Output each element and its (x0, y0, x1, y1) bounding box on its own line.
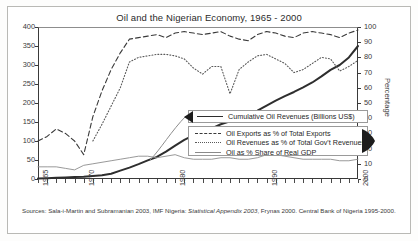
legend-label-cumulative-oil-revenues: Cumulative Oil Revenues (Billions US$) (228, 112, 355, 121)
chart-figure: Oil and the Nigerian Economy, 1965 - 200… (0, 0, 418, 241)
source-prefix: Sources: Sala-i-Martin and Subramanian 2… (22, 207, 188, 214)
legend-swatch-dotted (195, 139, 221, 146)
legend-percentage-series[interactable]: Oil Exports as % of Total Exports Oil Re… (188, 126, 368, 156)
source-note: Sources: Sala-i-Martin and Subramanian 2… (22, 207, 402, 214)
legend-item-oil-revenues[interactable]: Oil Revenues as % of Total Gov't Revenue… (189, 138, 367, 147)
source-italic: Statistical Appendix 2003 (188, 207, 257, 214)
legend-label-oil-revenues: Oil Revenues as % of Total Gov't Revenue… (226, 138, 365, 147)
legend-swatch-solid-thick (197, 113, 223, 120)
legend-swatch-dashed (195, 130, 221, 137)
legend-label-oil-gdp-share: Oil as % Share of Real GDP (226, 148, 316, 157)
legend-item-oil-exports[interactable]: Oil Exports as % of Total Exports (189, 129, 367, 138)
right-arrow-icon (362, 126, 376, 156)
legend-label-oil-exports: Oil Exports as % of Total Exports (226, 129, 331, 138)
left-arrow-icon (184, 111, 194, 123)
legend-item-oil-gdp[interactable]: Oil as % Share of Real GDP (189, 148, 367, 157)
legend-cumulative[interactable]: Cumulative Oil Revenues (Billions US$) (188, 110, 368, 123)
source-suffix: , Frynas 2000. Central Bank of Nigeria 1… (257, 207, 395, 214)
legend-swatch-solid-thin (195, 149, 221, 156)
